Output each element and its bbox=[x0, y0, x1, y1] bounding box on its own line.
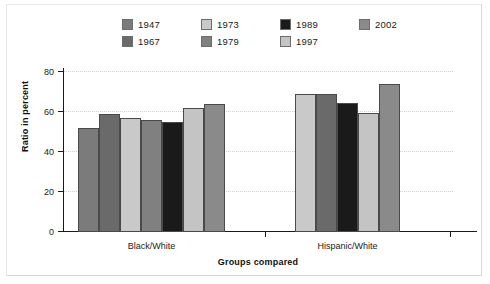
legend-label-1997: 1997 bbox=[296, 36, 318, 47]
plot-area: 020406080 Black/WhiteHispanic/White bbox=[63, 72, 453, 232]
legend-swatch-1973 bbox=[201, 19, 212, 30]
y-tick-label-40: 40 bbox=[44, 147, 54, 157]
bar-hispanic-white-1967[interactable] bbox=[316, 94, 337, 232]
bar-hispanic-white-1989[interactable] bbox=[337, 103, 358, 232]
legend-label-1967: 1967 bbox=[138, 36, 160, 47]
legend-swatch-1979 bbox=[201, 36, 212, 47]
legend-label-1989: 1989 bbox=[296, 19, 318, 30]
bar-group-black-white bbox=[78, 72, 225, 232]
plot-inner: 020406080 Black/WhiteHispanic/White bbox=[63, 72, 453, 232]
legend-swatch-1989 bbox=[280, 19, 291, 30]
x-axis-separator-0 bbox=[265, 232, 266, 237]
legend-item-1979[interactable]: 1979 bbox=[201, 36, 239, 47]
legend-swatch-2002 bbox=[359, 19, 370, 30]
y-axis-title: Ratio in percent bbox=[20, 81, 30, 152]
x-tick-label-hispanic-white: Hispanic/White bbox=[317, 241, 377, 251]
legend-label-1973: 1973 bbox=[217, 19, 239, 30]
legend-swatch-1947 bbox=[122, 19, 133, 30]
bar-hispanic-white-1973[interactable] bbox=[295, 94, 316, 232]
legend-item-1989[interactable]: 1989 bbox=[280, 19, 318, 30]
bar-black-white-2002[interactable] bbox=[204, 104, 225, 232]
y-tick-label-80: 80 bbox=[44, 67, 54, 77]
legend-swatch-1967 bbox=[122, 36, 133, 47]
bar-black-white-1989[interactable] bbox=[162, 122, 183, 232]
legend-item-2002[interactable]: 2002 bbox=[359, 19, 397, 30]
bar-black-white-1967[interactable] bbox=[99, 114, 120, 232]
bar-hispanic-white-2002[interactable] bbox=[379, 84, 400, 232]
y-axis-line bbox=[63, 68, 64, 232]
bar-black-white-1947[interactable] bbox=[78, 128, 99, 232]
x-axis-separator-1 bbox=[450, 232, 451, 237]
legend-item-1997[interactable]: 1997 bbox=[280, 36, 318, 47]
legend-item-1973[interactable]: 1973 bbox=[201, 19, 239, 30]
bar-black-white-1973[interactable] bbox=[120, 118, 141, 232]
x-tick-label-black-white: Black/White bbox=[128, 241, 176, 251]
bar-black-white-1997[interactable] bbox=[183, 108, 204, 232]
bar-hispanic-white-1997[interactable] bbox=[358, 113, 379, 232]
y-tick-label-20: 20 bbox=[44, 187, 54, 197]
legend-label-1947: 1947 bbox=[138, 19, 160, 30]
legend-swatch-1997 bbox=[280, 36, 291, 47]
bar-group-hispanic-white bbox=[295, 72, 400, 232]
legend-label-1979: 1979 bbox=[217, 36, 239, 47]
legend-item-1967[interactable]: 1967 bbox=[122, 36, 160, 47]
y-tick-label-0: 0 bbox=[49, 227, 54, 237]
x-axis-title: Groups compared bbox=[218, 257, 299, 267]
legend-item-1947[interactable]: 1947 bbox=[122, 19, 160, 30]
y-tick-label-60: 60 bbox=[44, 107, 54, 117]
chart-page: 1947196719731979198919972002 Ratio in pe… bbox=[0, 0, 490, 284]
bar-black-white-1979[interactable] bbox=[141, 120, 162, 232]
legend-label-2002: 2002 bbox=[375, 19, 397, 30]
chart-legend: 1947196719731979198919972002 bbox=[122, 19, 422, 55]
